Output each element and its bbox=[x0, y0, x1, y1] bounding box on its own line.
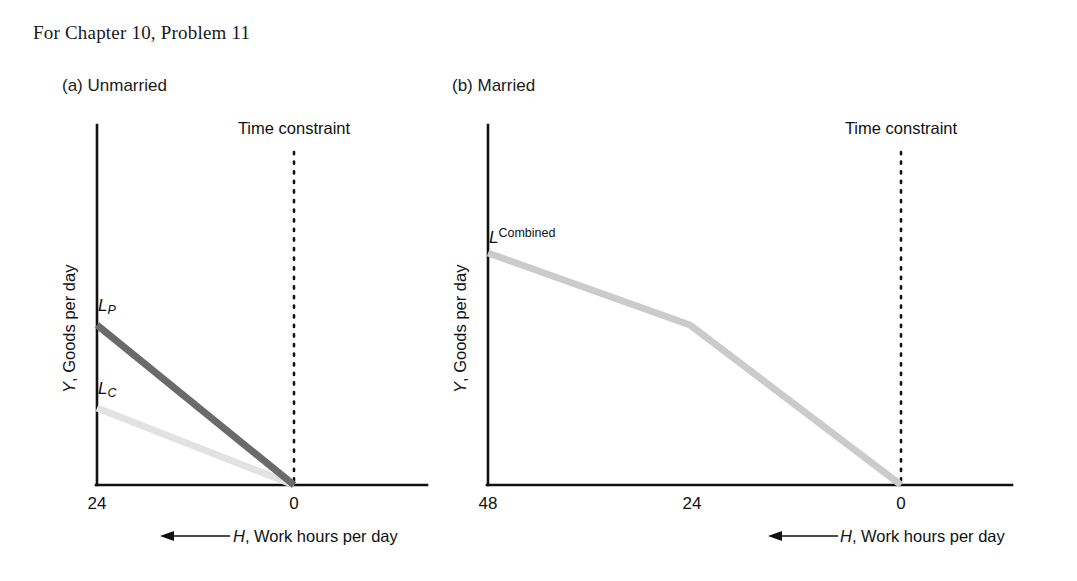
panel-a-x-tick-0: 0 bbox=[289, 494, 298, 514]
panel-b-y-axis-label-symbol: Y bbox=[451, 382, 469, 393]
curve-label-lp-subscript: P bbox=[107, 303, 115, 317]
panel-b-x-axis-caption-text: , Work hours per day bbox=[852, 527, 1005, 545]
panel-a-time-constraint-label: Time constraint bbox=[238, 119, 350, 138]
panel-b-x-tick-24: 24 bbox=[683, 494, 702, 514]
curve-label-lc-subscript: C bbox=[107, 386, 116, 400]
panel-b-curve-label-lcombined: LCombined bbox=[489, 226, 555, 248]
panel-b-x-tick-48: 48 bbox=[479, 494, 498, 514]
panel-a-curve-label-lp: LP bbox=[98, 296, 116, 317]
panel-b-y-axis-label-text: , Goods per day bbox=[451, 265, 469, 382]
panel-b-curve-lcombined bbox=[488, 253, 901, 485]
panel-a-x-axis-caption-symbol: H bbox=[233, 527, 245, 545]
panel-b-y-axis-label: Y, Goods per day bbox=[451, 265, 470, 393]
panel-a-x-axis-caption: H, Work hours per day bbox=[233, 527, 398, 546]
panel-a-x-tick-24: 24 bbox=[88, 494, 107, 514]
panel-a-axes bbox=[96, 125, 427, 485]
figure-plot-area bbox=[0, 0, 1077, 581]
panel-b-x-axis-arrow bbox=[768, 531, 838, 541]
panel-a-y-axis-label-symbol: Y bbox=[60, 382, 78, 393]
panel-b-x-axis-caption-symbol: H bbox=[840, 527, 852, 545]
panel-a-curve-lp bbox=[97, 325, 294, 485]
panel-a-y-axis-label: Y, Goods per day bbox=[60, 265, 79, 393]
panel-b-x-tick-0: 0 bbox=[896, 494, 905, 514]
panel-a-curve-label-lc: LC bbox=[98, 379, 117, 400]
panel-b-time-constraint-label: Time constraint bbox=[845, 119, 957, 138]
panel-a-y-axis-label-text: , Goods per day bbox=[60, 265, 78, 382]
panel-a-x-axis-arrow bbox=[160, 531, 230, 541]
panel-b-axes bbox=[487, 125, 1012, 485]
panel-b-x-axis-caption: H, Work hours per day bbox=[840, 527, 1005, 546]
panel-a-x-axis-caption-text: , Work hours per day bbox=[245, 527, 398, 545]
panel-a-curve-lc bbox=[97, 408, 294, 485]
curve-label-lcombined-superscript: Combined bbox=[498, 226, 555, 240]
